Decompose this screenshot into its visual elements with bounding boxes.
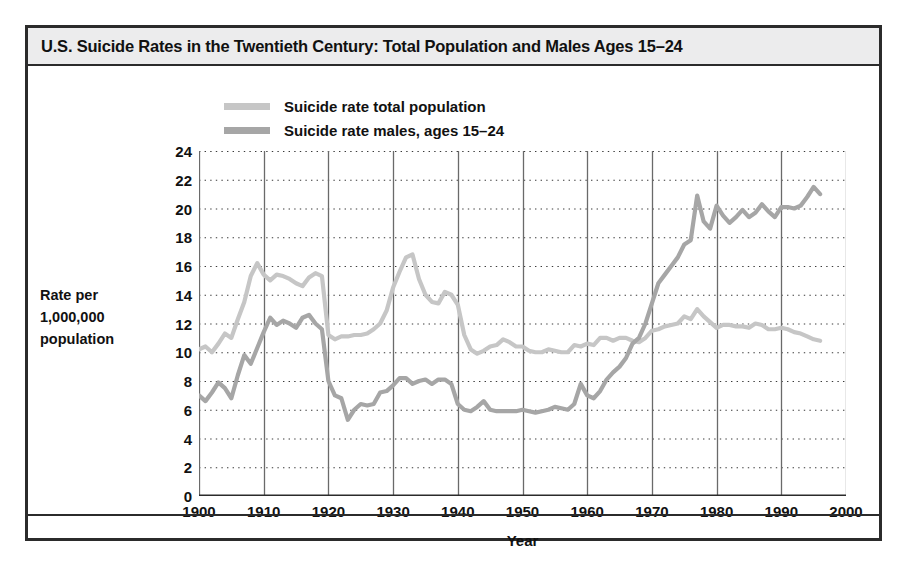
x-tick-label-1950: 1950 <box>506 503 539 520</box>
y-tick-label-16: 16 <box>150 259 192 274</box>
y-tick-label-10: 10 <box>150 345 192 360</box>
y-axis-title-line-0: Rate per <box>40 284 160 306</box>
y-tick-label-24: 24 <box>150 144 192 159</box>
figure-panel: U.S. Suicide Rates in the Twentieth Cent… <box>25 25 882 541</box>
x-tick-label-1940: 1940 <box>441 503 474 520</box>
y-axis-title: Rate per1,000,000population <box>40 284 160 350</box>
y-tick-label-18: 18 <box>150 230 192 245</box>
legend-swatch-icon <box>224 127 270 134</box>
plot-area <box>199 151 846 496</box>
y-axis-tick-labels: 024681012141618202224 <box>150 151 192 496</box>
y-tick-label-0: 0 <box>150 489 192 504</box>
title-band: U.S. Suicide Rates in the Twentieth Cent… <box>28 28 879 66</box>
y-axis-title-line-2: population <box>40 328 160 350</box>
x-tick-label-1900: 1900 <box>182 503 215 520</box>
y-tick-label-14: 14 <box>150 287 192 302</box>
y-axis-title-line-1: 1,000,000 <box>40 306 160 328</box>
page-title: U.S. Suicide Rates in the Twentieth Cent… <box>28 37 683 56</box>
series-line-males-15-24 <box>199 187 820 420</box>
legend-label: Suicide rate total population <box>284 98 486 115</box>
y-tick-label-8: 8 <box>150 374 192 389</box>
y-tick-label-2: 2 <box>150 460 192 475</box>
y-tick-label-4: 4 <box>150 431 192 446</box>
plot-wrapper: Rate per1,000,000population 024681012141… <box>28 66 879 538</box>
y-tick-label-20: 20 <box>150 201 192 216</box>
chart-svg <box>199 151 846 496</box>
legend-label: Suicide rate males, ages 15–24 <box>284 122 504 139</box>
x-axis-title: Year <box>199 532 846 549</box>
series-line-total-population <box>199 255 820 354</box>
x-tick-label-1990: 1990 <box>765 503 798 520</box>
y-tick-label-12: 12 <box>150 316 192 331</box>
x-tick-label-1910: 1910 <box>247 503 280 520</box>
legend-item-males-15-24: Suicide rate males, ages 15–24 <box>224 118 554 142</box>
footer-divider <box>28 514 879 516</box>
x-tick-label-2000: 2000 <box>829 503 862 520</box>
legend-swatch-icon <box>224 103 270 110</box>
legend-item-total-population: Suicide rate total population <box>224 94 554 118</box>
x-tick-label-1980: 1980 <box>700 503 733 520</box>
x-tick-label-1930: 1930 <box>376 503 409 520</box>
chart-legend: Suicide rate total populationSuicide rat… <box>224 94 554 142</box>
x-tick-label-1970: 1970 <box>635 503 668 520</box>
x-tick-label-1960: 1960 <box>571 503 604 520</box>
y-tick-label-6: 6 <box>150 402 192 417</box>
x-tick-label-1920: 1920 <box>312 503 345 520</box>
y-tick-label-22: 22 <box>150 172 192 187</box>
